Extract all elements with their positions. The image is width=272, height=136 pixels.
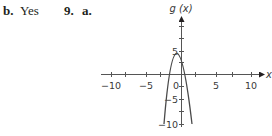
y-tick-label: −10 bbox=[158, 119, 178, 130]
x-tick-label: 10 bbox=[245, 80, 257, 91]
x-axis-label: x bbox=[265, 69, 272, 80]
y-axis-label: g (x) bbox=[169, 3, 192, 14]
origin-label: 0 bbox=[173, 80, 179, 91]
x-tick-label: −5 bbox=[139, 80, 153, 91]
graph-g-of-x: −10 −5 0 5 10 5 −5 −10 x g (x) bbox=[0, 0, 272, 136]
x-tick-label: −10 bbox=[101, 80, 121, 91]
x-tick-label: 5 bbox=[213, 80, 219, 91]
